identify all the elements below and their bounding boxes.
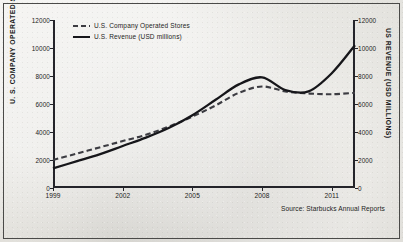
legend-label-stores: U.S. Company Operated Stores xyxy=(94,22,190,29)
legend: U.S. Company Operated Stores U.S. Revenu… xyxy=(73,20,190,42)
y-axis-left-tick-label: 10000 xyxy=(0,45,50,52)
x-axis-tick xyxy=(123,188,124,191)
chart-page: U. S. COMPANY OPERATED STORES US REVENUE… xyxy=(0,0,403,242)
y-axis-left-tick-label: 6000 xyxy=(0,101,50,108)
series-line-revenue xyxy=(53,45,355,168)
y-axis-left-tick-label: 0 xyxy=(0,185,50,192)
plot-area: 020004000600080001000012000 020004000600… xyxy=(53,20,355,188)
series-line-stores xyxy=(53,86,355,160)
x-axis-tick xyxy=(262,188,263,191)
x-axis-tick-label: 2008 xyxy=(242,192,282,199)
y-axis-left-tick-label: 12000 xyxy=(0,17,50,24)
source-note: Source: Starbucks Annual Reports xyxy=(281,205,385,212)
series-lines xyxy=(53,20,355,188)
y-axis-left-tick-label: 2000 xyxy=(0,157,50,164)
x-axis-tick-label: 1999 xyxy=(33,192,73,199)
x-axis-tick xyxy=(53,188,54,191)
legend-item-revenue: U.S. Revenue (USD millions) xyxy=(73,31,190,42)
x-axis-tick-label: 2002 xyxy=(103,192,143,199)
y-axis-right-tick-label: 12000 xyxy=(358,17,403,24)
y-axis-left-tick-label: 4000 xyxy=(0,129,50,136)
y-axis-left-tick-label: 8000 xyxy=(0,73,50,80)
legend-item-stores: U.S. Company Operated Stores xyxy=(73,20,190,31)
y-axis-right-tick-label: 8000 xyxy=(358,73,403,80)
dashed-line-icon xyxy=(73,21,90,30)
x-axis-tick xyxy=(192,188,193,191)
legend-label-revenue: U.S. Revenue (USD millions) xyxy=(94,33,182,40)
x-axis-tick xyxy=(332,188,333,191)
x-axis-tick-label: 2005 xyxy=(172,192,212,199)
y-axis-right-tick-label: 10000 xyxy=(358,45,403,52)
x-axis-tick-label: 2011 xyxy=(312,192,352,199)
y-axis-right-tick-label: 2000 xyxy=(358,157,403,164)
y-axis-right-tick-label: 6000 xyxy=(358,101,403,108)
solid-line-icon xyxy=(73,32,90,41)
y-axis-right-tick-label: 0 xyxy=(358,185,403,192)
y-axis-right-tick-label: 4000 xyxy=(358,129,403,136)
